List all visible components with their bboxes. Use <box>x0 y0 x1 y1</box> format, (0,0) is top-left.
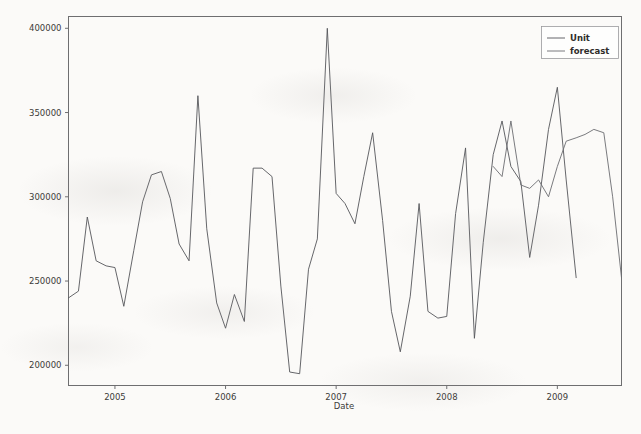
y-tick-label: 350000 <box>29 108 61 118</box>
y-axis-ticks: 200000250000300000350000400000 <box>29 23 68 370</box>
x-tick-label: 2007 <box>325 392 347 402</box>
x-tick-label: 2009 <box>547 392 569 402</box>
x-tick-label: 2005 <box>104 392 126 402</box>
y-tick-label: 200000 <box>29 360 61 370</box>
x-tick-label: 2008 <box>436 392 458 402</box>
y-tick-label: 300000 <box>29 192 61 202</box>
line-chart: 200000250000300000350000400000 200520062… <box>0 0 641 434</box>
data-series-group <box>69 28 622 373</box>
legend-label-forecast: forecast <box>570 46 609 56</box>
y-tick-label: 400000 <box>29 23 61 33</box>
x-axis-title: Date <box>334 401 354 411</box>
series-line-forecast <box>493 121 621 278</box>
y-tick-label: 250000 <box>29 276 61 286</box>
x-axis-ticks: 20052006200720082009 <box>104 386 568 402</box>
plot-frame <box>69 17 622 386</box>
chart-figure: 200000250000300000350000400000 200520062… <box>0 0 641 434</box>
legend-label-unit: Unit <box>570 33 590 43</box>
series-line-unit <box>69 28 577 373</box>
x-tick-label: 2006 <box>215 392 237 402</box>
chart-legend: Unitforecast <box>542 27 619 59</box>
